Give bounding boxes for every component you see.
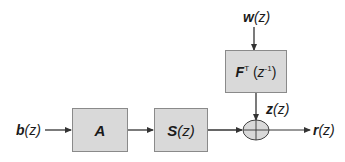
block-f-label: FT (z-1) xyxy=(236,64,277,80)
block-a-label: A xyxy=(95,122,106,139)
signal-output-label: r(z) xyxy=(313,123,335,137)
signal-noise-label: w(z) xyxy=(243,10,270,24)
block-a: A xyxy=(72,108,128,152)
summing-junction xyxy=(243,120,269,140)
signal-input-label: b(z) xyxy=(16,123,41,137)
block-s: S(z) xyxy=(154,108,208,152)
signal-filtered-noise-label: z(z) xyxy=(266,102,289,116)
block-s-label: S(z) xyxy=(167,122,195,139)
block-f: FT (z-1) xyxy=(225,50,287,93)
